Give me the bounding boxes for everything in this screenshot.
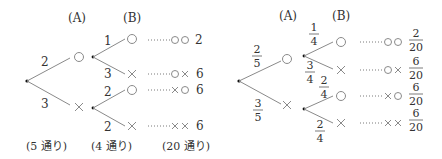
svg-text:6: 6 <box>413 81 420 94</box>
right-frac-a-circle: 2 5 <box>252 43 262 70</box>
right-frac-b-cc: 1 4 <box>309 21 319 48</box>
svg-text:20: 20 <box>409 41 423 54</box>
right-header-a: (A) <box>279 9 297 23</box>
circle-icon <box>128 86 137 95</box>
right-frac-b-xc: 2 4 <box>319 74 329 101</box>
cross-icon <box>128 70 136 78</box>
left-branch-b-xc-count: 2 <box>104 85 112 99</box>
left-outcome-cx: 6 <box>148 67 204 81</box>
svg-text:20: 20 <box>409 121 423 134</box>
svg-text:2: 2 <box>195 33 203 47</box>
right-outcome-xx: 6 20 <box>360 107 423 134</box>
svg-text:6: 6 <box>413 55 420 68</box>
circle-icon <box>337 38 346 47</box>
left-footer-total: (20 通り) <box>162 140 210 153</box>
svg-text:6: 6 <box>413 107 420 120</box>
cross-icon <box>283 101 291 109</box>
left-branch-a-cross-count: 3 <box>41 97 49 111</box>
right-header-b: (B) <box>332 9 350 23</box>
left-outcome-xx: 6 <box>148 119 204 133</box>
left-branch-b-cc-count: 1 <box>104 34 112 48</box>
circle-icon <box>283 55 292 64</box>
svg-text:5: 5 <box>254 57 261 70</box>
svg-text:4: 4 <box>317 132 324 145</box>
cross-icon <box>75 103 83 111</box>
tree-diagrams: (A) (B) 2 3 1 3 2 2 <box>0 0 442 159</box>
svg-text:4: 4 <box>311 35 318 48</box>
right-frac-a-cross: 3 5 <box>253 97 263 124</box>
left-branch-b-cx-count: 3 <box>104 67 112 81</box>
svg-text:3: 3 <box>307 59 314 72</box>
cross-icon <box>337 119 345 127</box>
right-outcome-cx: 6 20 <box>360 55 423 82</box>
left-branch-a-circle-count: 2 <box>41 55 49 69</box>
left-footer-a: (5 通り) <box>26 140 67 153</box>
right-outcome-xc: 6 20 <box>360 81 423 108</box>
cross-icon <box>128 122 136 130</box>
right-tree: (A) (B) 2 5 3 5 1 4 <box>237 9 423 145</box>
svg-text:1: 1 <box>311 21 318 34</box>
svg-text:4: 4 <box>321 88 328 101</box>
left-outcome-cc: 2 <box>148 33 203 47</box>
left-outcome-xc: 6 <box>148 83 204 97</box>
right-outcome-cc: 2 20 <box>360 27 423 54</box>
left-branch-b-xx-count: 2 <box>104 120 112 134</box>
svg-text:2: 2 <box>321 74 328 87</box>
circle-icon <box>337 92 346 101</box>
svg-text:2: 2 <box>254 43 261 56</box>
svg-text:2: 2 <box>413 27 420 40</box>
circle-icon <box>128 35 137 44</box>
cross-icon <box>337 66 345 74</box>
left-header-b: (B) <box>123 11 141 25</box>
left-tree: (A) (B) 2 3 1 3 2 2 <box>25 11 210 153</box>
right-frac-b-cx: 3 4 <box>305 59 315 86</box>
svg-text:6: 6 <box>196 83 204 97</box>
circle-icon <box>75 53 84 62</box>
svg-text:5: 5 <box>255 111 262 124</box>
svg-text:4: 4 <box>307 73 314 86</box>
left-footer-b: (4 通り) <box>91 140 132 153</box>
left-header-a: (A) <box>68 11 86 25</box>
svg-text:2: 2 <box>317 118 324 131</box>
svg-text:6: 6 <box>196 67 204 81</box>
svg-text:6: 6 <box>196 119 204 133</box>
svg-text:3: 3 <box>255 97 262 110</box>
right-frac-b-xx: 2 4 <box>315 118 325 145</box>
